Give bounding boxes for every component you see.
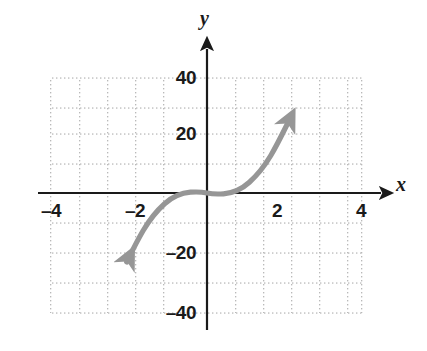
cubic-function-graph: –4 –2 2 4 40 20 –20 –40 x y [0, 0, 427, 351]
y-tick-label-minus20: –20 [140, 242, 196, 264]
x-tick-label-4: 4 [356, 200, 366, 222]
graph-canvas [0, 0, 427, 351]
y-tick-label-minus40: –40 [140, 302, 196, 324]
y-axis-label: y [200, 7, 209, 30]
x-tick-label-minus4: –4 [41, 200, 61, 222]
y-tick-label-20: 20 [140, 123, 196, 145]
x-tick-label-minus2: –2 [125, 200, 145, 222]
y-tick-label-40: 40 [140, 67, 196, 89]
x-tick-label-2: 2 [272, 200, 282, 222]
x-axis-label: x [396, 173, 406, 196]
